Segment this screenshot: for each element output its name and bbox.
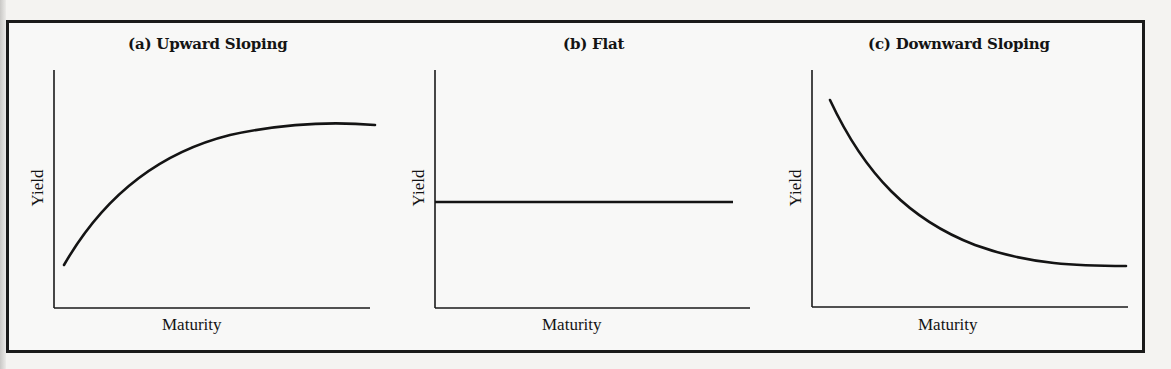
panel-a-axes [54,70,370,308]
yield-curve-figure [0,0,1171,369]
panel-c-y-axis-label: Yield [786,170,806,207]
panel-a-x-axis-label: Maturity [162,315,222,335]
panel-b-x-axis-label: Maturity [542,315,602,335]
panel-c-curve [830,100,1126,266]
panel-a-title: (a) Upward Sloping [128,35,287,53]
panel-b-title: (b) Flat [563,35,624,53]
panel-b-axes [435,70,750,308]
panel-a-curve [64,123,375,265]
panel-a-y-axis-label: Yield [28,170,48,207]
panel-b-y-axis-label: Yield [409,170,429,207]
panel-c-x-axis-label: Maturity [918,315,978,335]
panel-c-title: (c) Downward Sloping [868,35,1050,53]
panel-c-axes [812,70,1128,307]
